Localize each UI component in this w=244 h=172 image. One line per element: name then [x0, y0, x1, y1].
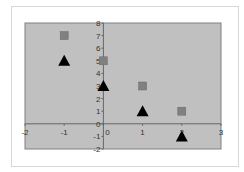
y-tick-label: 6 — [96, 44, 101, 53]
x-tick-label: 0 — [105, 128, 110, 137]
y-tick-label: -1 — [93, 132, 101, 141]
square-marker — [139, 82, 147, 90]
y-tick-label: -2 — [93, 145, 101, 154]
x-tick-label: 3 — [219, 128, 224, 137]
y-tick-label: 0 — [96, 120, 101, 129]
y-tick-label: 4 — [96, 69, 101, 78]
y-tick-label: 8 — [96, 19, 101, 28]
square-marker — [178, 107, 186, 115]
square-marker — [60, 32, 68, 40]
x-tick-label: -2 — [21, 128, 29, 137]
x-tick-label: -1 — [61, 128, 69, 137]
square-marker — [99, 57, 107, 65]
x-tick-label: 1 — [140, 128, 145, 137]
y-tick-label: 7 — [96, 32, 101, 41]
y-tick-label: 2 — [96, 95, 101, 104]
scatter-chart: -2-10123 -2-1012345678 — [0, 0, 244, 172]
plot-area — [25, 23, 221, 149]
y-tick-label: 1 — [96, 107, 101, 116]
